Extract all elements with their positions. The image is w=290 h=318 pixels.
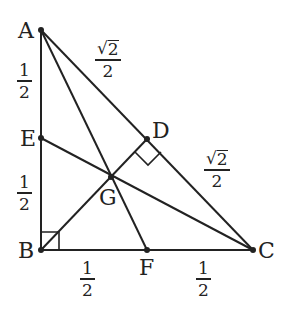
measure-ae: 1 2 (17, 62, 32, 101)
point-e-dot (38, 135, 44, 141)
segment-af (41, 30, 147, 250)
label-c: C (258, 240, 275, 262)
label-f: F (139, 257, 154, 279)
geometry-diagram: A E B C D F G 1 2 1 2 1 2 1 2 √2 2 √2 2 (0, 0, 290, 318)
measure-ad: √2 2 (95, 40, 121, 80)
measure-bf: 1 2 (80, 260, 95, 299)
point-f-dot (144, 247, 150, 253)
point-a-dot (38, 27, 44, 33)
label-b: B (18, 240, 34, 262)
measure-eb: 1 2 (17, 174, 32, 213)
measure-fc: 1 2 (196, 260, 211, 299)
point-b-dot (38, 247, 44, 253)
point-d-dot (144, 136, 150, 142)
label-e: E (20, 128, 36, 150)
label-d: D (152, 120, 170, 142)
measure-dc: √2 2 (204, 150, 230, 190)
right-angle-mark-d (135, 152, 161, 165)
point-c-dot (250, 247, 256, 253)
point-g-dot (108, 174, 114, 180)
label-g: G (99, 187, 117, 209)
segment-bd (41, 139, 147, 250)
label-a: A (18, 20, 34, 42)
